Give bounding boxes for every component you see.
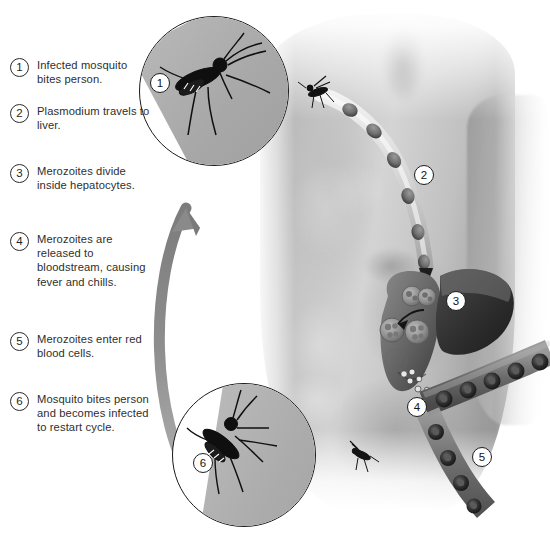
mosquito-1	[160, 33, 270, 135]
inset-mosquito-bite-1: 1	[139, 16, 289, 166]
legend-badge-1: 1	[10, 58, 29, 77]
legend-text-4: Merozoites are released to bloodstream, …	[37, 232, 150, 289]
legend-item-6: 6 Mosquito bites person and becomes infe…	[10, 392, 150, 462]
legend-item-5: 5 Merozoites enter red blood cells.	[10, 332, 150, 392]
legend-badge-3: 3	[10, 164, 29, 183]
inset-6-mosquito-art	[173, 384, 315, 526]
art-badge-5: 5	[472, 447, 492, 467]
legend-item-2: 2 Plasmodium travels to liver.	[10, 104, 150, 164]
art-badge-6: 6	[193, 453, 213, 473]
legend-text-3: Merozoites divide inside hepatocytes.	[37, 164, 150, 192]
blood-vessel-sporozoites	[320, 94, 433, 288]
legend-badge-6: 6	[10, 392, 29, 411]
legend-item-4: 4 Merozoites are released to bloodstream…	[10, 232, 150, 332]
legend-text-5: Merozoites enter red blood cells.	[37, 332, 150, 360]
art-badge-2: 2	[414, 165, 434, 185]
art-badge-4: 4	[407, 397, 427, 417]
art-badge-1: 1	[150, 73, 170, 93]
legend-badge-5: 5	[10, 332, 29, 351]
legend-item-1: 1 Infected mosquito bites person.	[10, 58, 150, 104]
legend-badge-2: 2	[10, 104, 29, 123]
legend-text-2: Plasmodium travels to liver.	[37, 104, 150, 132]
legend-badge-4: 4	[10, 232, 29, 251]
legend-list: 1 Infected mosquito bites person. 2 Plas…	[10, 58, 150, 462]
mosquito-on-hip	[350, 441, 379, 472]
legend-item-3: 3 Merozoites divide inside hepatocytes.	[10, 164, 150, 232]
legend-text-6: Mosquito bites person and becomes infect…	[37, 392, 150, 435]
malaria-life-cycle-diagram: 1 6	[0, 0, 550, 533]
legend-text-1: Infected mosquito bites person.	[37, 58, 150, 86]
art-badge-3: 3	[446, 291, 466, 311]
inset-mosquito-bite-6: 6	[172, 383, 316, 527]
red-blood-cell-vessel	[424, 343, 550, 514]
mosquito-6	[187, 390, 277, 494]
